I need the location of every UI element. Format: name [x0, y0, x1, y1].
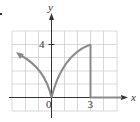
left-branch — [20, 55, 52, 98]
x-tick-label-3: 3 — [88, 98, 94, 110]
grid — [12, 31, 117, 111]
origin-label: 0 — [46, 98, 52, 110]
bullet-mark — [0, 13, 2, 15]
y-axis-label: y — [47, 1, 53, 13]
x-axis-label: x — [130, 91, 136, 103]
graph: y x 4 0 3 — [0, 0, 140, 122]
y-axis-arrow-icon — [49, 13, 54, 20]
y-tick-label-4: 4 — [39, 38, 45, 50]
x-axis-arrow-icon — [121, 95, 128, 100]
curve-left-arrow-icon — [16, 52, 24, 59]
